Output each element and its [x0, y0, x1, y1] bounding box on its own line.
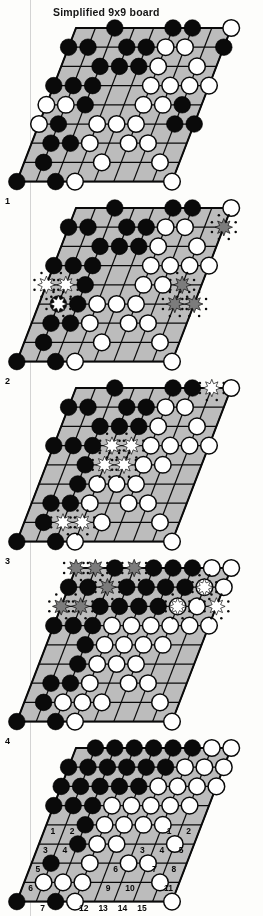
stone-black [145, 740, 162, 757]
stone-black [107, 740, 124, 757]
stone-white [108, 296, 125, 313]
stone-black [46, 437, 63, 454]
stone-white [135, 97, 152, 114]
stone-white [123, 617, 140, 634]
stone-white [152, 514, 169, 531]
panel-number-3: 3 [5, 556, 10, 566]
stone-white [189, 778, 206, 795]
stone-black [50, 116, 67, 133]
stone-white [108, 836, 125, 853]
stone-black [35, 334, 52, 351]
stone-black [35, 154, 52, 171]
territory-number-right: 10 [125, 883, 135, 893]
stone-white [140, 315, 157, 332]
stone-black [53, 778, 70, 795]
stone-black [65, 257, 82, 274]
territory-number-right: 9 [106, 883, 111, 893]
stone-white [177, 39, 194, 56]
stone-white [140, 135, 157, 152]
figure-root: Simplified 9x9 board 1234567123456789101… [0, 0, 263, 916]
stone-white [135, 817, 152, 834]
panel-number-4: 4 [5, 736, 10, 746]
stone-black [8, 893, 25, 910]
stone-white [169, 778, 186, 795]
stone-black [70, 836, 87, 853]
territory-number-left: 7 [40, 903, 45, 913]
stone-black [92, 418, 109, 435]
territory-number-left: 1 [50, 826, 55, 836]
stone-black [184, 380, 201, 397]
stone-black [111, 598, 128, 615]
stone-black [157, 759, 174, 776]
stone-black [174, 97, 191, 114]
stone-black [138, 399, 155, 416]
stone-black [111, 58, 128, 75]
figure-title: Simplified 9x9 board [53, 6, 160, 18]
stone-black [46, 77, 63, 94]
stone-black [131, 58, 148, 75]
territory-number-right: 8 [171, 864, 176, 874]
stone-black [107, 380, 124, 397]
panel-number-2: 2 [5, 376, 10, 386]
panel-5: 1234567123456789101112131415 [0, 738, 263, 916]
stone-white [67, 353, 84, 370]
stone-black [119, 219, 136, 236]
stone-black [77, 457, 94, 474]
territory-number-right: 1 [167, 826, 172, 836]
stone-black [70, 476, 87, 493]
stone-white [177, 399, 194, 416]
stone-black [47, 713, 64, 730]
stone-black [92, 238, 109, 255]
territory-number-right: 13 [98, 903, 108, 913]
stone-black [167, 116, 184, 133]
stone-white [189, 238, 206, 255]
stone-black [92, 598, 109, 615]
stone-white [150, 778, 167, 795]
go-board-panel-2 [0, 198, 263, 378]
stone-white [204, 560, 221, 577]
stone-black [65, 797, 82, 814]
territory-number-left: 3 [43, 845, 48, 855]
stone-black [184, 200, 201, 217]
stone-white [143, 257, 160, 274]
stone-black [138, 579, 155, 596]
stone-black [80, 759, 97, 776]
panel-1 [0, 18, 263, 198]
stone-white [196, 759, 213, 776]
stone-black [157, 579, 174, 596]
stone-black [43, 855, 60, 872]
stone-black [111, 778, 128, 795]
stone-black [87, 740, 104, 757]
stone-black [92, 778, 109, 795]
stone-black [62, 135, 79, 152]
stone-black [43, 675, 60, 692]
stone-white [94, 334, 111, 351]
stone-white [150, 238, 167, 255]
stone-white [120, 675, 137, 692]
stone-white [223, 380, 240, 397]
territory-number-right: 3 [140, 845, 145, 855]
go-board-panel-1 [0, 18, 263, 198]
stone-black [80, 399, 97, 416]
stone-white [201, 437, 218, 454]
stone-white [223, 20, 240, 37]
stone-black [184, 20, 201, 37]
stone-white [177, 759, 194, 776]
stone-black [84, 797, 101, 814]
stone-white [143, 437, 160, 454]
stone-black [43, 135, 60, 152]
stone-black [131, 238, 148, 255]
stone-black [107, 200, 124, 217]
stone-white [189, 418, 206, 435]
stone-white [223, 560, 240, 577]
stone-white [162, 257, 179, 274]
stone-black [8, 713, 25, 730]
stone-black [177, 579, 194, 596]
stone-white [82, 315, 99, 332]
stone-black [62, 495, 79, 512]
stone-black [126, 740, 143, 757]
stone-white [216, 759, 233, 776]
stone-white [31, 116, 48, 133]
panel-4 [0, 558, 263, 738]
stone-white [201, 617, 218, 634]
